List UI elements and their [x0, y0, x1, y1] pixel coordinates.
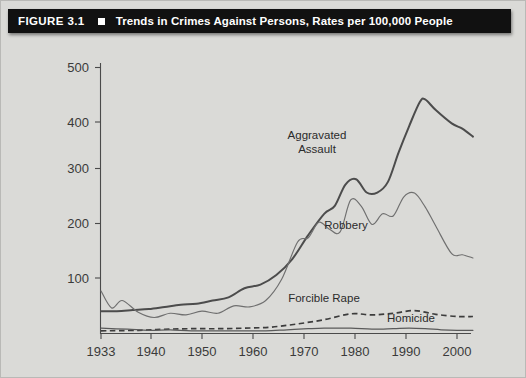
x-tick-label: 1933	[87, 344, 116, 359]
line-chart: 500 400 300 200 100 1933 1940 1950 1960 …	[1, 35, 526, 378]
x-tick-label: 1990	[392, 344, 421, 359]
label-robbery: Robbery	[324, 219, 368, 231]
figure-number: FIGURE 3.1	[8, 15, 85, 27]
x-tick-label: 1980	[341, 344, 370, 359]
x-tick-marks	[101, 334, 457, 340]
label-aggravated-assault-line1: Aggravated	[288, 129, 347, 141]
x-tick-label: 1970	[290, 344, 319, 359]
square-bullet-icon	[98, 18, 105, 25]
x-axis-tick-labels: 1933 1940 1950 1960 1970 1980 1990 2000	[87, 344, 472, 359]
series-line-robbery	[101, 192, 473, 317]
figure-title-bar: FIGURE 3.1 Trends in Crimes Against Pers…	[8, 9, 511, 33]
y-axis-tick-labels: 500 400 300 200 100	[67, 60, 89, 286]
y-tick-label: 500	[67, 60, 89, 75]
x-tick-label: 1950	[188, 344, 217, 359]
label-homicide: Homicide	[387, 312, 435, 324]
y-tick-label: 100	[67, 271, 89, 286]
figure-page: FIGURE 3.1 Trends in Crimes Against Pers…	[0, 0, 526, 378]
y-tick-label: 300	[67, 161, 89, 176]
chart-plot-area: 500 400 300 200 100 1933 1940 1950 1960 …	[1, 35, 526, 378]
y-tick-label: 200	[67, 216, 89, 231]
x-tick-label: 1960	[239, 344, 268, 359]
axis-lines	[101, 63, 472, 334]
label-aggravated-assault-line2: Assault	[298, 143, 337, 155]
x-tick-label: 2000	[443, 344, 472, 359]
series-annotations: Aggravated Assault Robbery Forcible Rape…	[288, 129, 435, 324]
x-tick-label: 1940	[137, 344, 166, 359]
figure-caption: Trends in Crimes Against Persons, Rates …	[116, 15, 453, 27]
y-tick-label: 400	[67, 115, 89, 130]
chart-axes	[95, 63, 471, 339]
label-forcible-rape: Forcible Rape	[288, 292, 360, 304]
y-tick-marks	[95, 68, 101, 279]
